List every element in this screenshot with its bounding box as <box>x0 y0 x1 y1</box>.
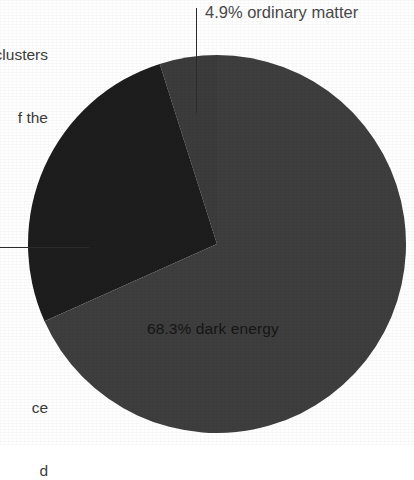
pie-chart <box>28 55 406 433</box>
pie-svg <box>28 55 406 433</box>
pie-label-dark-energy: 68.3% dark energy <box>147 320 279 338</box>
pie-label-ordinary-matter: 4.9% ordinary matter <box>205 3 358 22</box>
clipped-text-fragment: d <box>0 460 48 480</box>
leader-line-ordinary-matter <box>196 8 197 113</box>
leader-line-dark-matter <box>0 247 89 248</box>
